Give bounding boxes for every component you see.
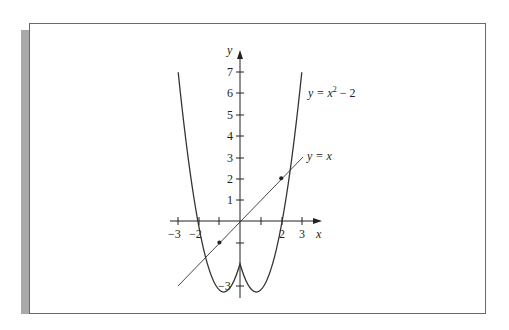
x-axis-arrow-icon [313, 218, 322, 224]
intersection-point [279, 176, 283, 180]
y-tick-label: 1 [227, 193, 233, 207]
parabola-eq-prefix: y = x [307, 86, 333, 100]
parabola-equation-label: y = x2 − 2 [307, 85, 356, 100]
y-tick-label: 2 [227, 172, 233, 186]
y-tick-label: 6 [227, 86, 233, 100]
y-axis-label: y [226, 43, 233, 57]
y-tick-label: 4 [227, 129, 233, 143]
x-axis-label: x [315, 227, 322, 241]
line-equation-label: y = x [306, 149, 332, 163]
plot-area: −3 −2 2 3 x 7 6 5 4 3 2 1 −3 y y = x2 − … [0, 0, 509, 330]
intersection-point [217, 240, 221, 244]
x-tick-label: 3 [299, 227, 305, 241]
y-axis-arrow-icon [237, 50, 243, 59]
axes [170, 56, 316, 298]
y-tick-label: 7 [227, 65, 233, 79]
x-tick-label: −3 [168, 227, 181, 241]
y-tick-label: 3 [227, 151, 233, 165]
y-tick-label: 5 [227, 108, 233, 122]
parabola-eq-suffix: − 2 [337, 86, 356, 100]
